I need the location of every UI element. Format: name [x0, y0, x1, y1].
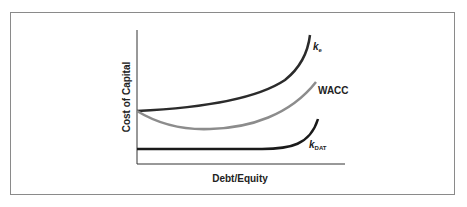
ke-label: ke — [313, 41, 322, 53]
y-axis-label: Cost of Capital — [121, 62, 132, 133]
wacc-label: WACC — [318, 85, 349, 96]
x-axis-label: Debt/Equity — [212, 173, 268, 184]
kdat-label: kDAT — [309, 139, 326, 151]
ke-curve — [137, 35, 310, 111]
wacc-curve — [137, 82, 316, 129]
